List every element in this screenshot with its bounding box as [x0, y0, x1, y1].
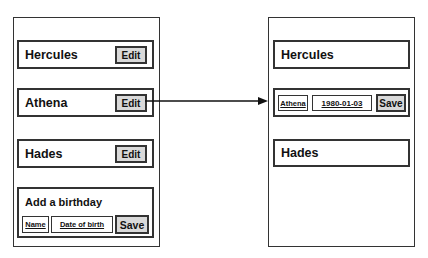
- dob-placeholder: Date of birth: [60, 220, 104, 229]
- name-placeholder: Name: [25, 220, 45, 229]
- item-name: Athena: [25, 96, 67, 110]
- list-item-hercules: Hercules Edit: [17, 40, 154, 69]
- add-form-title: Add a birthday: [25, 196, 102, 208]
- arrowhead-icon: [258, 97, 268, 105]
- edit-button[interactable]: Edit: [115, 145, 147, 163]
- list-item-athena: Athena Edit: [17, 88, 154, 117]
- edit-button[interactable]: Edit: [115, 46, 147, 64]
- edit-button[interactable]: Edit: [115, 94, 147, 112]
- item-name: Hades: [25, 147, 63, 161]
- save-button[interactable]: Save: [376, 94, 406, 112]
- dob-value: 1980-01-03: [322, 99, 363, 108]
- list-item-athena-editing: Athena 1980-01-03 Save: [273, 88, 410, 117]
- name-input[interactable]: Athena: [278, 95, 308, 111]
- name-value: Athena: [280, 99, 305, 108]
- add-birthday-form: Add a birthday Name Date of birth Save: [17, 187, 154, 238]
- list-item-hades: Hades: [273, 139, 410, 167]
- list-item-hades: Hades Edit: [17, 139, 154, 168]
- name-input[interactable]: Name: [22, 216, 49, 233]
- list-item-hercules: Hercules: [273, 40, 410, 69]
- item-name: Hades: [281, 146, 319, 160]
- save-button[interactable]: Save: [115, 215, 149, 234]
- date-of-birth-input[interactable]: Date of birth: [51, 216, 113, 233]
- date-of-birth-input[interactable]: 1980-01-03: [312, 95, 372, 111]
- item-name: Hercules: [281, 48, 334, 62]
- item-name: Hercules: [25, 48, 78, 62]
